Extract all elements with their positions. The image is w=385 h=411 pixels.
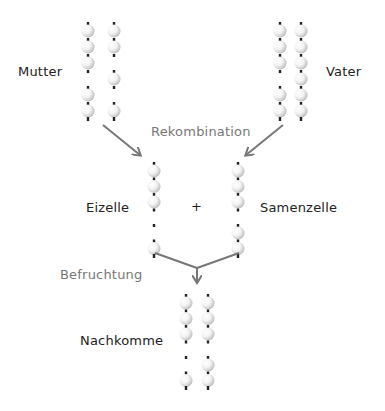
- chromosome-end-dot: [153, 254, 155, 258]
- gene-bead: [180, 297, 193, 310]
- chromosome: [202, 294, 215, 390]
- centromere-dot: [153, 224, 155, 227]
- chromosome-end-dot: [300, 117, 302, 121]
- gene-bead: [232, 196, 245, 209]
- chromosome: [180, 294, 193, 390]
- gene-bead: [148, 196, 161, 209]
- father-label: Vater: [326, 64, 361, 79]
- gene-bead: [82, 89, 95, 102]
- centromere-dot: [113, 86, 115, 89]
- gene-bead: [274, 105, 287, 118]
- gene-bead: [202, 359, 215, 372]
- chromosome-end-dot: [185, 386, 187, 390]
- fertilization-line-left: [155, 253, 197, 268]
- offspring-label: Nachkomme: [80, 333, 163, 348]
- chromosome-end-dot: [87, 117, 89, 121]
- chromosome-end-dot: [113, 117, 115, 121]
- sperm-cell-label: Samenzelle: [260, 200, 337, 215]
- gene-bead: [202, 328, 215, 341]
- chromosome: [148, 162, 161, 258]
- plus-sign: +: [191, 199, 202, 214]
- fertilization-label: Befruchtung: [60, 267, 143, 282]
- mother-label: Mutter: [18, 64, 62, 79]
- centromere-dot: [207, 341, 209, 344]
- gene-bead: [232, 180, 245, 193]
- chromosome-end-dot: [207, 386, 209, 390]
- gene-bead: [295, 57, 308, 70]
- gene-bead: [82, 41, 95, 54]
- centromere-dot: [185, 341, 187, 344]
- gene-bead: [295, 25, 308, 38]
- gene-bead: [274, 89, 287, 102]
- gene-bead: [274, 57, 287, 70]
- centromere-dot: [87, 70, 89, 73]
- chromosome: [295, 22, 308, 121]
- gene-bead: [232, 165, 245, 178]
- centromere-dot: [279, 70, 281, 73]
- recombination-label: Rekombination: [151, 124, 251, 139]
- centromere-dot: [185, 356, 187, 359]
- gene-bead: [180, 328, 193, 341]
- gene-bead: [274, 25, 287, 38]
- fertilization-line-right: [197, 253, 239, 268]
- gene-bead: [82, 25, 95, 38]
- gene-bead: [274, 41, 287, 54]
- recombination-arrow-left: [103, 125, 140, 155]
- gene-bead: [108, 41, 121, 54]
- gene-bead: [148, 242, 161, 255]
- gene-bead: [82, 57, 95, 70]
- chromosome: [82, 22, 95, 121]
- gene-bead: [202, 374, 215, 387]
- chromosome-set-father: [274, 22, 308, 121]
- centromere-dot: [153, 209, 155, 212]
- egg-cell-label: Eizelle: [86, 200, 129, 215]
- gene-bead: [108, 25, 121, 38]
- centromere-dot: [113, 54, 115, 57]
- gene-bead: [295, 89, 308, 102]
- chromosome: [232, 162, 245, 258]
- gene-bead: [148, 180, 161, 193]
- chromosome-end-dot: [279, 117, 281, 121]
- chromosome-set-sperm-cell: [232, 162, 245, 258]
- recombination-arrow-right: [246, 125, 283, 155]
- gene-bead: [295, 73, 308, 86]
- centromere-dot: [237, 209, 239, 212]
- gene-bead: [108, 73, 121, 86]
- gene-bead: [180, 374, 193, 387]
- gene-bead: [202, 312, 215, 325]
- chromosome-set-egg-cell: [148, 162, 161, 258]
- chromosome: [274, 22, 287, 121]
- gene-bead: [202, 297, 215, 310]
- gene-bead: [180, 312, 193, 325]
- gene-bead: [232, 227, 245, 240]
- gene-bead: [295, 41, 308, 54]
- gene-bead: [295, 105, 308, 118]
- chromosome-set-offspring: [180, 294, 215, 390]
- gene-bead: [148, 165, 161, 178]
- chromosome-set-mother: [82, 22, 121, 121]
- gene-bead: [108, 105, 121, 118]
- chromosome: [108, 22, 121, 121]
- gene-bead: [82, 105, 95, 118]
